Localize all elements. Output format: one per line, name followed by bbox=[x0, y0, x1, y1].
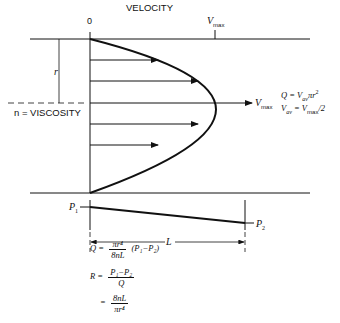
vmax-axis-label: Vmax bbox=[207, 15, 224, 28]
viscosity-label: n = VISCOSITY bbox=[14, 107, 81, 118]
velocity-title: VELOCITY bbox=[126, 2, 173, 13]
p2-label: P2 bbox=[256, 218, 265, 231]
vmax-arrow-label: Vmax bbox=[255, 97, 272, 110]
average-velocity-definition: Vav = Vmax/2 bbox=[281, 103, 325, 115]
pressure-gradient-line bbox=[90, 207, 245, 223]
velocity-profile-curve bbox=[90, 39, 216, 193]
resistance-formula: = 8nLπr⁴ bbox=[100, 293, 131, 314]
poiseuille-diagram bbox=[0, 0, 340, 323]
flow-rate-definition: Q = Vavπr2 bbox=[281, 89, 319, 102]
poiseuille-equation: Q = πr⁴8nL (P₁−P₂) bbox=[90, 239, 159, 260]
p1-label: P1 bbox=[69, 201, 78, 214]
resistance-equation: R = P₁−P₂Q bbox=[90, 267, 137, 288]
radius-label: r bbox=[54, 66, 58, 77]
length-label: L bbox=[166, 236, 172, 247]
zero-label: 0 bbox=[87, 16, 92, 26]
